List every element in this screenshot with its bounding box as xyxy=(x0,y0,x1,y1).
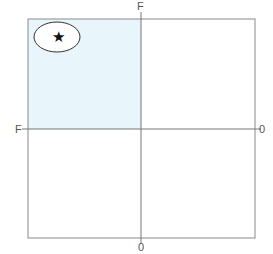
quadrant-diagram xyxy=(0,0,273,254)
bottom-axis-label: 0 xyxy=(138,242,144,253)
left-axis-label: F xyxy=(15,124,22,135)
top-axis-label: F xyxy=(137,1,144,12)
star-icon: ★ xyxy=(52,29,65,44)
right-axis-label: 0 xyxy=(259,124,265,135)
